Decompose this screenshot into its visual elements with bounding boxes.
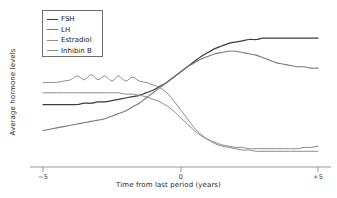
legend-item-inhibin-b[interactable]: Inhibin B xyxy=(47,46,102,57)
series-line-inhibin-b xyxy=(43,93,318,149)
series-line-estradiol xyxy=(43,75,318,152)
y-axis-label: Average hormone levels xyxy=(9,27,17,157)
x-tick-label-plus5: +5 xyxy=(308,173,328,181)
legend-item-fsh[interactable]: FSH xyxy=(47,14,102,25)
x-axis xyxy=(30,167,331,172)
legend-item-lh[interactable]: LH xyxy=(47,25,102,36)
legend-swatch-lh xyxy=(47,29,58,30)
legend-label-lh: LH xyxy=(61,25,70,36)
legend-label-fsh: FSH xyxy=(61,14,75,25)
series-line-lh xyxy=(43,51,318,130)
x-axis-label: Time from last period (years) xyxy=(0,181,337,189)
x-tick-label-zero: 0 xyxy=(171,173,191,181)
legend-swatch-estradiol xyxy=(47,40,58,41)
chart-legend: FSH LH Estradiol Inhibin B xyxy=(42,10,103,57)
legend-label-inhibin-b: Inhibin B xyxy=(61,46,92,57)
legend-swatch-inhibin-b xyxy=(47,50,58,51)
x-tick-label-minus5: −5 xyxy=(33,173,53,181)
legend-label-estradiol: Estradiol xyxy=(61,35,92,46)
hormone-levels-chart-figure: −5 0 +5 Time from last period (years) Av… xyxy=(0,0,337,198)
legend-item-estradiol[interactable]: Estradiol xyxy=(47,35,102,46)
legend-swatch-fsh xyxy=(47,19,58,20)
